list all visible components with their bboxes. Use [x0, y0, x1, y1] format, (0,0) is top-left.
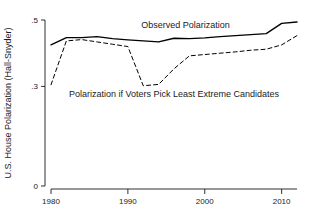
- annotation-counterfactual-polarization: Polarization if Voters Pick Least Extrem…: [69, 89, 280, 99]
- polarization-line-chart: 0.3.5 1980199020002010 U.S. House Polari…: [0, 0, 318, 216]
- x-tick-label: 1990: [119, 197, 137, 206]
- annotation-observed-polarization: Observed Polarization: [141, 20, 230, 30]
- x-tick-label: 2000: [196, 197, 214, 206]
- y-tick-label: .5: [31, 16, 38, 25]
- y-axis-title: U.S. House Polarization (Hall-Snyder): [3, 27, 13, 178]
- series-counterfactual-polarization: [51, 36, 297, 86]
- y-tick-label: 0: [34, 182, 39, 191]
- x-tick-label: 2010: [273, 197, 291, 206]
- y-tick-group: 0.3.5: [31, 16, 45, 191]
- x-tick-label: 1980: [42, 197, 60, 206]
- x-tick-group: 1980199020002010: [42, 189, 291, 206]
- y-tick-label: .3: [31, 82, 38, 91]
- chart-figure: 0.3.5 1980199020002010 U.S. House Polari…: [0, 0, 318, 216]
